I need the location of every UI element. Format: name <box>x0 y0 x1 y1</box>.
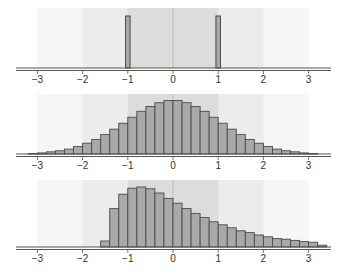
histogram-bar <box>245 233 254 247</box>
x-tick-label: 3 <box>306 160 312 171</box>
x-tick-label: 2 <box>261 74 267 85</box>
histogram-bar <box>182 209 191 247</box>
histogram-bar <box>101 241 110 247</box>
histogram-bar <box>200 111 209 154</box>
histogram-bar <box>155 103 164 154</box>
histogram-bar <box>254 143 263 154</box>
histogram-bar <box>218 123 227 154</box>
histogram-bar <box>173 101 182 154</box>
histogram-bar <box>155 193 164 247</box>
histogram-bar <box>101 135 110 154</box>
histogram-bar <box>200 218 209 247</box>
x-tick-label: 0 <box>170 74 176 85</box>
histogram-bar <box>191 106 200 154</box>
histogram-bar <box>227 228 236 247</box>
histogram-bar <box>128 117 137 154</box>
x-tick-label: −1 <box>122 74 134 85</box>
histogram-bar <box>110 129 119 154</box>
histogram-bar <box>236 135 245 154</box>
x-tick-label: 3 <box>306 253 312 264</box>
histogram-bar <box>209 117 218 154</box>
histogram-bar <box>128 188 137 247</box>
histogram-bar <box>272 149 281 154</box>
histogram-bar <box>65 149 74 154</box>
histogram-bar <box>92 139 101 154</box>
histogram-bar <box>245 139 254 154</box>
histogram-bar <box>227 129 236 154</box>
histogram-bar <box>126 16 131 68</box>
histogram-figure: −3−2−10123−3−2−10123−3−2−10123 <box>0 0 343 279</box>
histogram-bar <box>119 123 128 154</box>
histogram-bar <box>291 240 300 247</box>
histogram-bar <box>309 242 318 247</box>
histogram-bar <box>146 189 155 247</box>
x-tick-label: −1 <box>122 160 134 171</box>
histogram-bar <box>119 194 128 247</box>
histogram-bar <box>236 231 245 247</box>
histogram-bar <box>216 16 221 68</box>
histogram-bar <box>83 143 92 154</box>
histogram-bar <box>74 146 83 154</box>
histogram-bar <box>182 103 191 154</box>
histogram-bar <box>272 239 281 247</box>
x-tick-label: 0 <box>170 160 176 171</box>
histogram-bar <box>191 213 200 247</box>
x-tick-label: 1 <box>215 74 221 85</box>
x-tick-label: −3 <box>32 74 44 85</box>
histogram-bar <box>173 203 182 247</box>
histogram-bar <box>137 111 146 154</box>
histogram-bar <box>300 242 309 247</box>
histogram-panels: −3−2−10123−3−2−10123−3−2−10123 <box>0 0 343 279</box>
histogram-bar <box>164 198 173 247</box>
histogram-bar <box>263 237 272 247</box>
histogram-bar <box>263 146 272 154</box>
x-tick-label: 2 <box>261 253 267 264</box>
x-tick-label: −2 <box>77 253 89 264</box>
x-tick-label: −3 <box>32 253 44 264</box>
x-tick-label: 2 <box>261 160 267 171</box>
histogram-bar <box>146 106 155 154</box>
x-tick-label: 0 <box>170 253 176 264</box>
histogram-bar <box>137 187 146 247</box>
x-tick-label: −2 <box>77 74 89 85</box>
x-tick-label: −1 <box>122 253 134 264</box>
x-tick-label: 3 <box>306 74 312 85</box>
x-tick-label: 1 <box>215 253 221 264</box>
histogram-bar <box>164 101 173 154</box>
histogram-bar <box>218 225 227 247</box>
histogram-bar <box>281 239 290 247</box>
x-tick-label: 1 <box>215 160 221 171</box>
x-tick-label: −2 <box>77 160 89 171</box>
histogram-bar <box>209 222 218 247</box>
histogram-bar <box>110 209 119 247</box>
x-tick-label: −3 <box>32 160 44 171</box>
histogram-bar <box>254 235 263 247</box>
